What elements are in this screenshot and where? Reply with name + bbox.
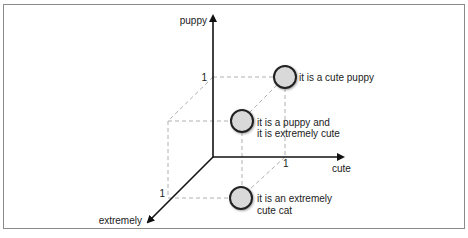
point-label: it is a cute puppy <box>299 72 374 83</box>
point-label-line-1: it is an extremely <box>257 193 332 204</box>
extremely-axis <box>148 157 213 222</box>
point-extremely-cute-cat: it is an extremely cute cat <box>230 187 332 216</box>
point-cute-puppy: it is a cute puppy <box>274 66 374 88</box>
point-label-line-1: it is a puppy and <box>257 117 330 128</box>
puppy-tick-1: 1 <box>201 72 207 83</box>
cute-axis-label: cute <box>332 163 351 174</box>
point-puppy-extremely-cute: it is a puppy and it is extremely cute <box>231 110 340 139</box>
point-label-line-2: it is extremely cute <box>257 128 340 139</box>
puppy-axis-label: puppy <box>180 15 207 26</box>
point-label-line-2: cute cat <box>257 205 292 216</box>
cute-tick-1: 1 <box>283 158 289 169</box>
vector-space-diagram: puppy cute extremely 1 1 1 it is a cute … <box>0 0 468 238</box>
extremely-axis-label: extremely <box>99 215 142 226</box>
extremely-tick-1: 1 <box>159 188 165 199</box>
